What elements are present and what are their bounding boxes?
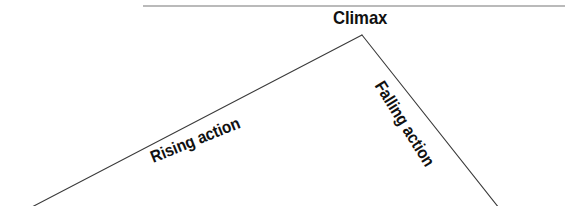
falling-action-line bbox=[362, 35, 499, 206]
rising-action-line bbox=[30, 35, 362, 206]
climax-label: Climax bbox=[333, 8, 387, 27]
plot-diagram-graphic bbox=[0, 0, 578, 206]
plot-diagram-canvas: Climax Rising action Falling action bbox=[0, 0, 578, 206]
